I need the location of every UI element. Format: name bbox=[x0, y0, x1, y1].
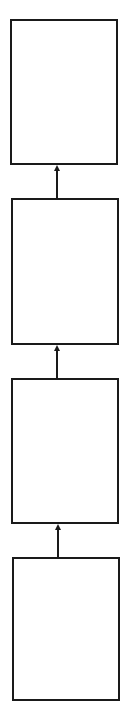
flow-box-2 bbox=[11, 198, 119, 345]
flow-box-3 bbox=[11, 378, 119, 524]
arrow-shaft bbox=[56, 170, 58, 198]
arrow-shaft bbox=[56, 350, 58, 378]
flow-box-1 bbox=[10, 19, 118, 165]
flow-box-4 bbox=[12, 557, 120, 701]
arrow-shaft bbox=[57, 529, 59, 557]
